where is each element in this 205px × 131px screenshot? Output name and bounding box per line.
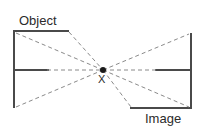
center-point-label: X [98,74,105,85]
ray-x-to-image-top-icon [103,34,189,70]
ray-diagram-canvas: Object Image X [0,0,205,131]
image-label: Image [145,112,181,125]
ray-object-top-right-to-x-icon [69,32,103,70]
ray-x-to-image-bottom-icon [103,70,189,107]
object-shape [13,31,69,108]
ray-object-bottom-to-x-icon [16,70,103,107]
image-shape [130,33,192,109]
ray-object-top-left-to-x-icon [16,33,103,70]
object-label: Object [19,14,57,27]
